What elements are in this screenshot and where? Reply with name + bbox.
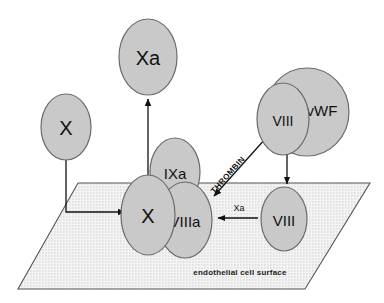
factor-x-bound: X <box>121 175 175 255</box>
factor-viii-vwf-bound: VIII <box>257 83 309 155</box>
diagram-canvas: endothelial cell surface THROMBIN Xa Xa <box>0 0 384 303</box>
factor-xa-free-label: Xa <box>136 47 161 69</box>
coagulation-pathway-diagram: endothelial cell surface THROMBIN Xa Xa <box>0 0 384 303</box>
von-willebrand-factor-label: vWF <box>307 102 338 119</box>
surface-caption: endothelial cell surface <box>193 268 287 277</box>
factor-x-bound-label: X <box>141 205 154 227</box>
factor-x-free-label: X <box>59 117 72 139</box>
factor-x-free: X <box>41 94 91 160</box>
factor-viii-vwf-bound-label: VIII <box>272 113 293 129</box>
factor-ixa-label: IXa <box>164 165 187 182</box>
factor-viii-surface-label: VIII <box>273 212 296 229</box>
factor-viii-surface: VIII <box>261 187 307 251</box>
arrow-viii-to-viiia-label: Xa <box>233 203 244 213</box>
factor-xa-free: Xa <box>119 19 177 95</box>
